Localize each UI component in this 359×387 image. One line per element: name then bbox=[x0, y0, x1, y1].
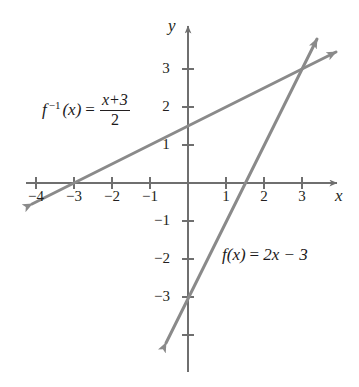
forward-function-label: f(x)=2x − 3 bbox=[222, 245, 308, 265]
fraction-denominator: 2 bbox=[111, 112, 119, 129]
x-tick-label-neg4: −4 bbox=[24, 188, 48, 205]
y-tick-label-1: 1 bbox=[154, 136, 178, 153]
y-tick-label-neg3: −3 bbox=[150, 288, 174, 305]
y-tick-label-neg2: −2 bbox=[150, 250, 174, 267]
forward-function-name: f(x) bbox=[222, 245, 246, 264]
inverse-function-label: f−1(x) = x+3 2 bbox=[42, 92, 130, 129]
forward-expression: 2x − 3 bbox=[263, 245, 308, 264]
inverse-function-name: f bbox=[42, 100, 47, 120]
x-axis-label: x bbox=[335, 186, 343, 206]
y-tick-label-3: 3 bbox=[154, 60, 178, 77]
x-tick-label-1: 1 bbox=[214, 188, 238, 205]
y-axis bbox=[182, 26, 194, 372]
figure-canvas: y x −4 −3 −2 −1 1 2 3 3 2 1 −1 −2 −3 f−1… bbox=[0, 0, 359, 387]
inverse-fraction: x+3 2 bbox=[100, 92, 130, 129]
x-tick-label-neg1: −1 bbox=[138, 188, 162, 205]
fraction-numerator: x+3 bbox=[100, 92, 130, 109]
forward-equals-sign: = bbox=[250, 245, 260, 264]
y-tick-label-2: 2 bbox=[154, 98, 178, 115]
inverse-argument: (x) bbox=[62, 100, 81, 120]
y-tick-label-neg1: −1 bbox=[150, 212, 174, 229]
x-tick-label-neg3: −3 bbox=[62, 188, 86, 205]
x-tick-label-3: 3 bbox=[290, 188, 314, 205]
inverse-exponent: −1 bbox=[49, 99, 61, 111]
inverse-equals-sign: = bbox=[85, 100, 95, 120]
y-axis-label: y bbox=[168, 16, 176, 36]
x-tick-label-neg2: −2 bbox=[100, 188, 124, 205]
x-tick-label-2: 2 bbox=[252, 188, 276, 205]
